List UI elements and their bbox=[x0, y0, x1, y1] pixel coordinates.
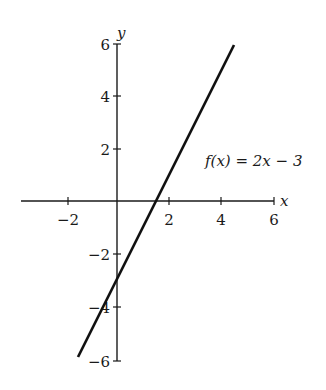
x-axis-label: x bbox=[280, 192, 289, 210]
y-tick-label: 2 bbox=[100, 141, 110, 159]
y-tick-label: −6 bbox=[88, 353, 110, 371]
x-tick-label: −2 bbox=[57, 211, 79, 229]
x-tick-label: 4 bbox=[216, 211, 226, 229]
x-tick-label: 6 bbox=[269, 211, 279, 229]
function-label: f(x) = 2x − 3 bbox=[204, 152, 302, 170]
x-tick-label: 2 bbox=[164, 211, 174, 229]
y-axis-label: y bbox=[116, 24, 126, 42]
y-tick-label: −2 bbox=[88, 246, 110, 264]
function-graph: −2 2 4 6 6 4 2 −2 −4 −6 x y f(x) = 2x − … bbox=[0, 0, 326, 390]
y-tick-label: 4 bbox=[100, 88, 110, 106]
y-tick-label: 6 bbox=[100, 36, 110, 54]
